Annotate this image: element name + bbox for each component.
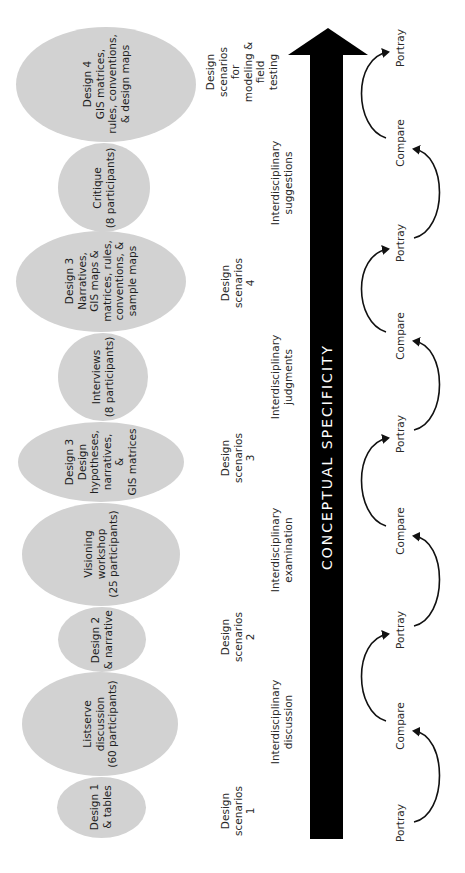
cycle-label-compare: Compare	[394, 119, 407, 167]
cycle-label-portray: Portray	[394, 804, 407, 842]
cycle-label-portray: Portray	[394, 611, 407, 649]
cycle-label-compare: Compare	[394, 312, 407, 360]
cycle-label-compare: Compare	[394, 507, 407, 555]
cycle-label-portray: Portray	[394, 415, 407, 453]
cycle-label-compare: Compare	[394, 702, 407, 750]
cycle-label-portray: Portray	[394, 224, 407, 262]
axis-label-conceptual-specificity: CONCEPTUAL SPECIFICITY	[319, 344, 336, 570]
cycle-label-portray: Portray	[394, 29, 407, 67]
